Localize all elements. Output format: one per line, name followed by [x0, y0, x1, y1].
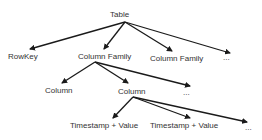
edge-column-family-ellipsis-2: [95, 62, 190, 86]
node-column-family-2: Column Family: [150, 54, 203, 63]
edge-column-ellipsis-3: [133, 97, 247, 122]
node-table: Table: [110, 10, 129, 19]
diagram-edges: [0, 0, 262, 140]
edge-column-family-column-1: [62, 62, 95, 83]
node-ellipsis-2: ...: [183, 88, 190, 97]
node-timestamp-value-2: Timestamp + Value: [150, 121, 218, 130]
hbase-data-model-diagram: Table RowKey Column Family Column Family…: [0, 0, 262, 140]
edge-table-column-family-1: [104, 22, 125, 49]
edge-table-ellipsis-1: [125, 22, 230, 53]
node-column-family-1: Column Family: [78, 52, 131, 61]
node-column-2: Column: [118, 87, 146, 96]
node-rowkey: RowKey: [8, 52, 38, 61]
node-ellipsis-3: ...: [245, 123, 252, 132]
edge-table-rowkey: [30, 22, 125, 49]
node-ellipsis-1: ...: [223, 53, 230, 62]
edge-column-timestamp-value-1: [113, 97, 133, 118]
node-timestamp-value-1: Timestamp + Value: [70, 121, 138, 130]
edge-column-family-column-2: [95, 62, 128, 83]
edge-table-column-family-2: [125, 22, 172, 51]
node-column-1: Column: [45, 86, 73, 95]
